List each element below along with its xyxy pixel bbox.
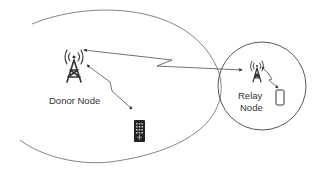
relay-node-label-line2: Node xyxy=(240,102,263,114)
donor-node-label: Donor Node xyxy=(49,95,100,107)
relay-node-label-line1: Relay xyxy=(238,90,262,102)
donor-coverage-ellipse xyxy=(20,10,221,163)
donor-relay-link xyxy=(84,50,242,70)
relay-tower-icon xyxy=(251,61,264,82)
relay-ue-link xyxy=(262,67,278,88)
relay-ue-phone-icon xyxy=(276,90,284,105)
donor-tower-icon xyxy=(65,50,83,82)
diagram-canvas xyxy=(0,0,315,170)
donor-ue-phone-icon xyxy=(134,120,145,142)
relay-coverage-circle xyxy=(218,42,306,130)
